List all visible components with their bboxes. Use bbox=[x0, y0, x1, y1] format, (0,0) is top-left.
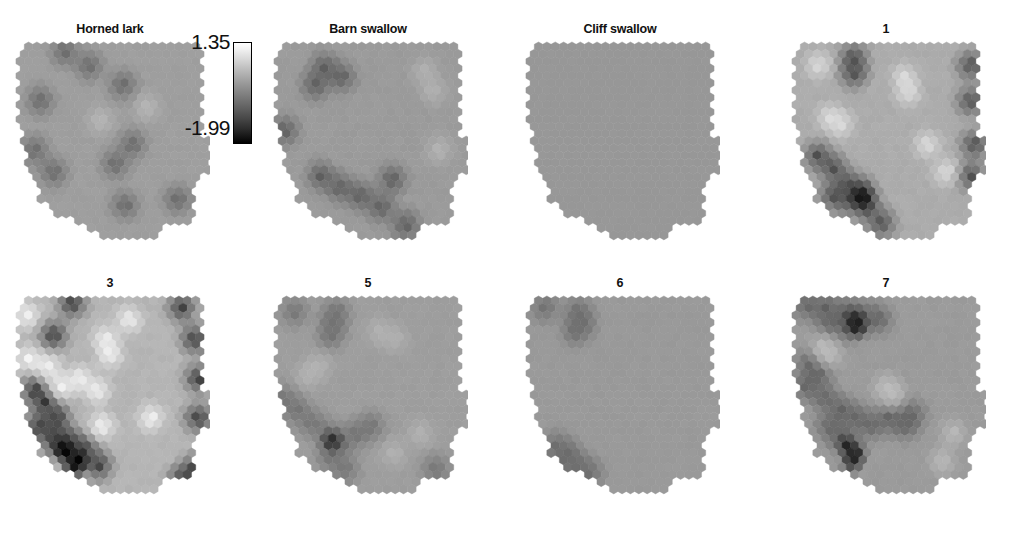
panel-title-cluster-6: 6 bbox=[520, 276, 720, 292]
hexbin-map-svg bbox=[520, 292, 720, 497]
panel-cluster-5: 5 bbox=[268, 276, 468, 497]
panel-title-cluster-5: 5 bbox=[268, 276, 468, 292]
panel-title-cluster-7: 7 bbox=[786, 276, 986, 292]
colorbar-gradient-bar bbox=[233, 42, 252, 144]
colorbar-max-label: 1.35 bbox=[160, 30, 230, 54]
panel-cluster-1: 1 bbox=[786, 22, 986, 243]
colorbar: 1.35 -1.99 bbox=[160, 28, 260, 148]
hexbin-map-barn-swallow bbox=[268, 38, 468, 243]
panel-cluster-6: 6 bbox=[520, 276, 720, 497]
panel-title-barn-swallow: Barn swallow bbox=[268, 22, 468, 38]
hexbin-map-svg bbox=[268, 38, 468, 243]
panel-title-cluster-3: 3 bbox=[10, 276, 210, 292]
hexbin-map-svg bbox=[786, 292, 986, 497]
hexbin-map-cluster-7 bbox=[786, 292, 986, 497]
hexbin-map-cluster-6 bbox=[520, 292, 720, 497]
hexbin-map-cluster-1 bbox=[786, 38, 986, 243]
panel-cluster-7: 7 bbox=[786, 276, 986, 497]
panel-title-cliff-swallow: Cliff swallow bbox=[520, 22, 720, 38]
panel-cluster-3: 3 bbox=[10, 276, 210, 497]
colorbar-min-label: -1.99 bbox=[154, 116, 230, 140]
panel-cliff-swallow: Cliff swallow bbox=[520, 22, 720, 243]
hexbin-map-svg bbox=[268, 292, 468, 497]
panel-title-cluster-1: 1 bbox=[786, 22, 986, 38]
hexbin-map-svg bbox=[786, 38, 986, 243]
clipped-header-text bbox=[0, 0, 1013, 4]
hexbin-map-svg bbox=[520, 38, 720, 243]
hexbin-map-cluster-5 bbox=[268, 292, 468, 497]
hexbin-map-cliff-swallow bbox=[520, 38, 720, 243]
figure-canvas: Horned larkBarn swallowCliff swallow1356… bbox=[0, 0, 1013, 544]
hexbin-map-cluster-3 bbox=[10, 292, 210, 497]
panel-barn-swallow: Barn swallow bbox=[268, 22, 468, 243]
hexbin-map-svg bbox=[10, 292, 210, 497]
